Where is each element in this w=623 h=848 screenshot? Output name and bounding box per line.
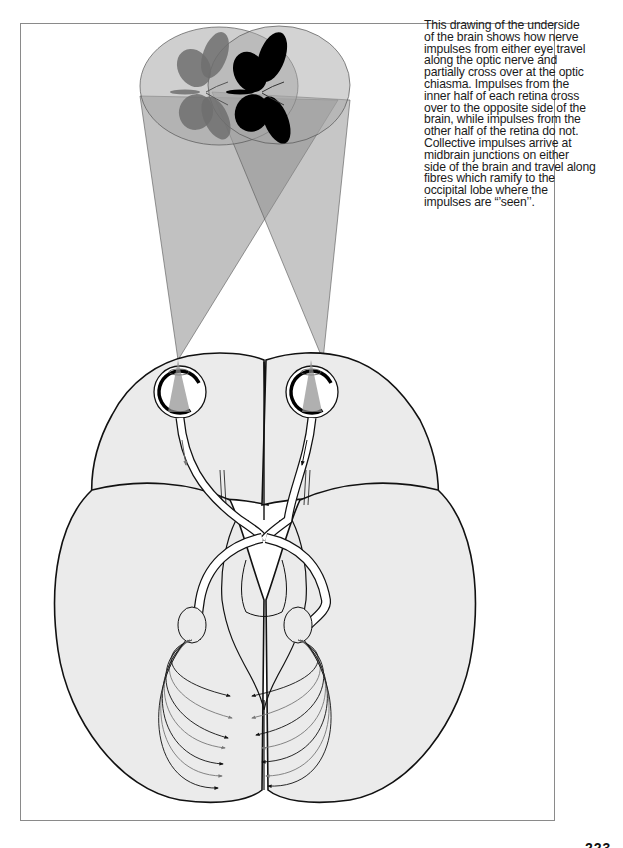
brain-underside [55, 353, 476, 802]
hemisphere-left [55, 483, 264, 802]
caption-line: impulses are “’seen’’. [424, 197, 614, 209]
page-number: 223 [585, 838, 611, 848]
midbrain-junction-right [284, 607, 312, 643]
midbrain-junction-left [178, 607, 206, 643]
caption-text: This drawing of the underside of the bra… [424, 20, 614, 209]
